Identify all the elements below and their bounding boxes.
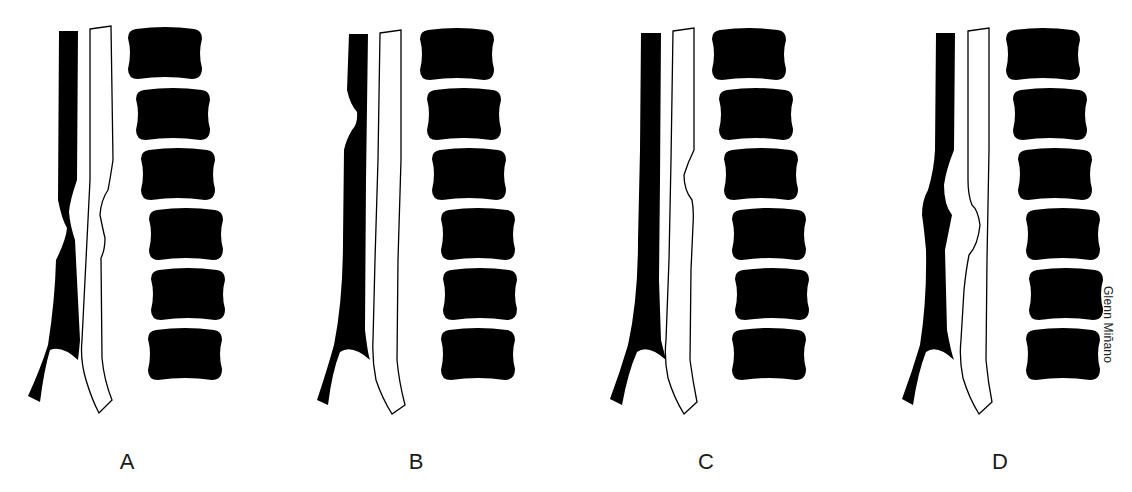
vertebra-6 bbox=[441, 328, 515, 380]
artist-credit: Glenn Miñano bbox=[1101, 286, 1115, 363]
panel-label-c: C bbox=[698, 449, 714, 475]
spinal-cord-c bbox=[610, 33, 666, 405]
spinal-cord-a bbox=[28, 31, 80, 402]
vertebra-1 bbox=[420, 28, 494, 80]
vertebra-3 bbox=[432, 148, 506, 200]
vertebra-2 bbox=[427, 88, 501, 140]
vertebra-5 bbox=[443, 268, 517, 320]
panel-label-a: A bbox=[120, 449, 135, 475]
vertebra-6 bbox=[148, 328, 222, 380]
thecal-sac-b bbox=[373, 30, 405, 414]
panel-c bbox=[610, 28, 809, 414]
vertebra-2 bbox=[719, 88, 793, 140]
spinal-cord-d bbox=[902, 33, 955, 405]
panel-a bbox=[28, 26, 225, 413]
vertebral-column-c bbox=[712, 28, 809, 380]
thecal-sac-a bbox=[82, 26, 114, 413]
vertebral-column-a bbox=[128, 27, 225, 380]
vertebra-3 bbox=[141, 148, 215, 200]
panel-label-d: D bbox=[992, 449, 1008, 475]
vertebra-2 bbox=[136, 88, 210, 140]
panel-label-b: B bbox=[409, 449, 424, 475]
vertebra-3 bbox=[724, 148, 798, 200]
vertebra-1 bbox=[128, 27, 202, 79]
panel-d bbox=[902, 28, 1103, 414]
vertebra-1 bbox=[1006, 28, 1080, 80]
spinal-cord-b bbox=[317, 34, 370, 405]
thecal-sac-c bbox=[665, 28, 697, 414]
vertebra-2 bbox=[1013, 88, 1087, 140]
vertebra-4 bbox=[732, 208, 806, 260]
vertebra-1 bbox=[712, 28, 786, 80]
vertebra-5 bbox=[151, 268, 225, 320]
vertebra-4 bbox=[1026, 208, 1100, 260]
thecal-sac-d bbox=[960, 28, 992, 414]
vertebral-column-d bbox=[1006, 28, 1103, 380]
vertebra-6 bbox=[732, 328, 806, 380]
vertebra-6 bbox=[1026, 328, 1100, 380]
vertebral-column-b bbox=[420, 28, 517, 380]
panel-b bbox=[317, 28, 517, 414]
vertebra-4 bbox=[441, 208, 515, 260]
vertebra-5 bbox=[735, 268, 809, 320]
vertebra-5 bbox=[1029, 268, 1103, 320]
spine-diagram bbox=[0, 0, 1132, 492]
vertebra-3 bbox=[1018, 148, 1092, 200]
vertebra-4 bbox=[149, 208, 223, 260]
